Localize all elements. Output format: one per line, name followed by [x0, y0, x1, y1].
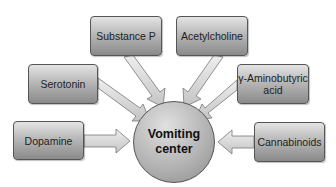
node-label-line1: γ-Aminobutyric	[238, 72, 307, 84]
arrow-cannabinoids	[218, 130, 254, 154]
node-label: Acetylcholine	[181, 30, 243, 42]
node-label: Dopamine	[25, 135, 73, 147]
center-label-line1: Vomiting	[148, 127, 201, 142]
center-label-line2: center	[148, 142, 201, 157]
node-substance-p: Substance P	[90, 16, 162, 56]
node-cannabinoids: Cannabinoids	[254, 122, 325, 162]
node-label: Cannabinoids	[257, 136, 321, 148]
node-label: Serotonin	[41, 78, 86, 90]
node-acetylcholine: Acetylcholine	[176, 16, 248, 56]
node-label-line2: acid	[263, 84, 282, 96]
node-label: Substance P	[96, 30, 156, 42]
arrow-dopamine	[84, 129, 130, 153]
vomiting-center-node: Vomiting center	[133, 101, 215, 183]
node-dopamine: Dopamine	[13, 121, 84, 160]
node-serotonin: Serotonin	[28, 64, 98, 104]
node-gaba: γ-Aminobutyric acid	[237, 64, 309, 104]
arrow-substance-p	[124, 55, 165, 107]
